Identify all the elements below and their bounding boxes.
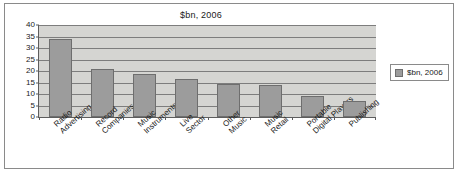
gridline (39, 71, 376, 72)
y-axis-tick-mark (36, 48, 39, 49)
x-axis-tick-mark (250, 117, 251, 120)
y-axis-tick-mark (36, 71, 39, 72)
y-axis-tick-mark (36, 105, 39, 106)
chart-title: $bn, 2006 (5, 10, 453, 20)
x-axis-tick-mark (123, 117, 124, 120)
y-axis-tick-mark (36, 59, 39, 60)
chart-frame: $bn, 2006 0510152025303540RadioAdvertisi… (4, 3, 454, 169)
x-axis-tick-mark (39, 117, 40, 120)
y-axis-tick-label: 15 (26, 79, 35, 87)
y-axis-tick-label: 25 (26, 56, 35, 64)
gridline (39, 25, 376, 26)
bar (49, 39, 72, 117)
x-axis-tick-mark (81, 117, 82, 120)
gridline (39, 48, 376, 49)
y-axis-tick-mark (36, 25, 39, 26)
plot-area: 0510152025303540RadioAdvertisingRecordCo… (38, 25, 376, 118)
x-axis-tick-mark (165, 117, 166, 120)
legend-label: $bn, 2006 (407, 68, 443, 77)
chart-legend: $bn, 2006 (390, 64, 449, 81)
gridline (39, 60, 376, 61)
y-axis-tick-label: 0 (31, 113, 35, 121)
y-axis-tick-mark (36, 94, 39, 95)
y-axis-tick-label: 35 (26, 33, 35, 41)
gridline (39, 83, 376, 84)
chart-title-text: $bn, 2006 (180, 10, 222, 20)
y-axis-tick-label: 10 (26, 90, 35, 98)
gridline (39, 37, 376, 38)
x-axis-tick-mark (292, 117, 293, 120)
gridline (39, 94, 376, 95)
x-axis-tick-mark (334, 117, 335, 120)
legend-swatch-icon (395, 69, 403, 77)
y-axis-tick-label: 5 (31, 102, 35, 110)
y-axis-tick-label: 20 (26, 67, 35, 75)
y-axis-tick-mark (36, 36, 39, 37)
y-axis-tick-mark (36, 82, 39, 83)
x-axis-tick-mark (375, 117, 376, 120)
y-axis-tick-label: 30 (26, 44, 35, 52)
x-axis-tick-mark (208, 117, 209, 120)
y-axis-tick-label: 40 (26, 21, 35, 29)
